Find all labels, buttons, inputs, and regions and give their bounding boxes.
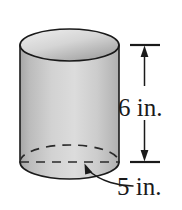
cylinder-top-face (20, 29, 119, 61)
cylinder-top-ellipse (20, 29, 119, 61)
height-label: 6 in. (118, 94, 162, 121)
height-down-arrowhead (141, 150, 149, 162)
cylinder-figure: 6 in. 5 in. (0, 0, 182, 210)
cylinder-illustration: 6 in. 5 in. (0, 0, 182, 210)
cylinder-body-fill (20, 45, 119, 179)
diameter-label: 5 in. (117, 173, 161, 200)
cylinder-body (20, 45, 119, 179)
height-up-arrowhead (141, 46, 149, 58)
